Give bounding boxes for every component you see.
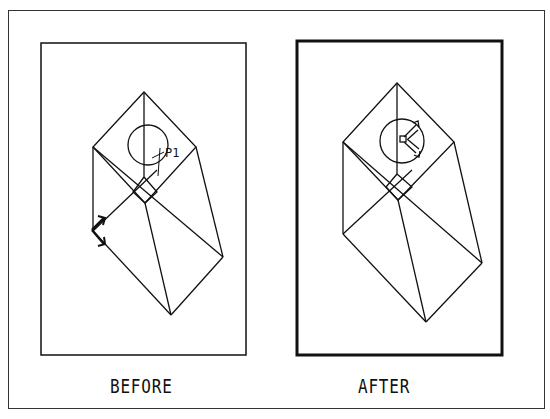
ucs-axis-icon <box>92 216 105 246</box>
after-panel <box>297 41 502 355</box>
before-viewport-frame <box>41 43 246 355</box>
before-wireframe-solid <box>93 92 223 315</box>
before-hole-circle <box>128 125 168 165</box>
after-caption: AFTER <box>358 374 410 398</box>
p1-label: P1 <box>165 146 179 160</box>
before-caption: BEFORE <box>110 374 173 398</box>
after-wireframe-solid <box>343 83 482 322</box>
cad-scene: P1 <box>0 0 550 419</box>
before-panel <box>41 43 246 355</box>
after-ucs-axis-icon <box>400 121 420 157</box>
